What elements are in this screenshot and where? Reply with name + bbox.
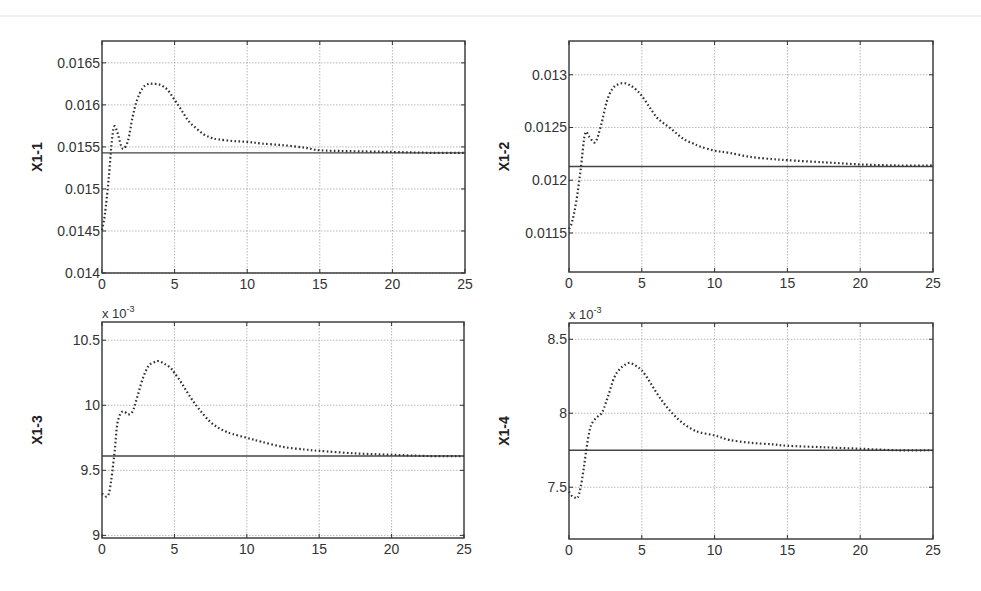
- x-tick-label: 15: [312, 276, 328, 292]
- y-tick-label: 0.013: [532, 67, 567, 83]
- y-axis-label: X1-1: [29, 142, 45, 172]
- x-tick-label: 10: [239, 276, 255, 292]
- y-tick-label: 8.5: [548, 331, 568, 347]
- y-tick-label: 9.5: [81, 462, 101, 478]
- plot-area: [102, 41, 465, 273]
- x-tick-label: 20: [852, 275, 868, 291]
- x-tick-label: 20: [852, 542, 868, 558]
- y-tick-label: 10: [84, 397, 100, 413]
- y-tick-label: 0.0145: [57, 223, 100, 239]
- x-tick-label: 10: [707, 275, 723, 291]
- x-tick-label: 5: [171, 276, 179, 292]
- x-tick-label: 25: [925, 275, 941, 291]
- x-tick-label: 15: [780, 275, 796, 291]
- plot-area: [569, 323, 933, 539]
- x-tick-label: 15: [780, 542, 796, 558]
- y-tick-label: 0.014: [65, 265, 100, 281]
- y-tick-label: 0.0155: [57, 139, 100, 155]
- y-tick-label: 0.0165: [57, 55, 100, 71]
- y-tick-label: 0.0115: [525, 225, 567, 241]
- y-tick-label: 0.0125: [524, 119, 567, 135]
- x-tick-label: 25: [456, 541, 472, 557]
- x-tick-label: 25: [925, 542, 941, 558]
- x-tick-label: 0: [565, 542, 573, 558]
- x-tick-label: 20: [384, 541, 400, 557]
- plot-area: [102, 322, 464, 538]
- y-tick-label: 0.015: [65, 181, 100, 197]
- y-axis-label: X1-4: [496, 416, 512, 446]
- y-tick-label: 7.5: [548, 479, 568, 495]
- figure-canvas: 05101520250.0140.01450.0150.01550.0160.0…: [0, 0, 981, 591]
- x-tick-label: 10: [239, 541, 255, 557]
- x-tick-label: 10: [707, 542, 723, 558]
- y-axis-label: X1-3: [29, 415, 45, 445]
- x-tick-label: 5: [638, 275, 646, 291]
- subplot-bottom-left: 051015202599.51010.5X1-3x 10-3: [29, 304, 472, 557]
- x-tick-label: 5: [638, 542, 646, 558]
- figure: 05101520250.0140.01450.0150.01550.0160.0…: [0, 0, 981, 591]
- subplot-top-right: 05101520250.01150.0120.01250.013X1-2: [496, 41, 941, 291]
- y-axis-label: X1-2: [496, 142, 512, 172]
- y-tick-label: 10.5: [73, 332, 100, 348]
- x-tick-label: 20: [385, 276, 401, 292]
- x-tick-label: 25: [457, 276, 473, 292]
- y-tick-label: 9: [92, 527, 100, 543]
- y-tick-label: 0.016: [65, 97, 100, 113]
- scan-artifact-line: [0, 15, 981, 17]
- axis-multiplier: x 10-3: [569, 305, 602, 322]
- y-tick-label: 0.012: [532, 172, 567, 188]
- subplot-top-left: 05101520250.0140.01450.0150.01550.0160.0…: [29, 41, 473, 292]
- x-tick-label: 5: [171, 541, 179, 557]
- subplot-bottom-right: 05101520257.588.5X1-4x 10-3: [496, 305, 941, 558]
- x-tick-label: 15: [311, 541, 327, 557]
- x-tick-label: 0: [565, 275, 573, 291]
- y-tick-label: 8: [559, 405, 567, 421]
- axis-multiplier: x 10-3: [102, 304, 135, 321]
